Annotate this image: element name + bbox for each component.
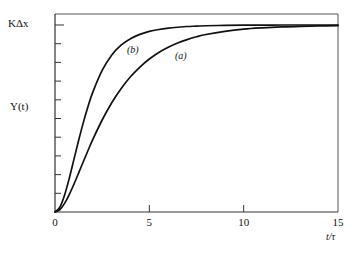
x-axis-tick-label: 15 <box>326 216 350 228</box>
x-axis-tick-label: 10 <box>232 216 256 228</box>
chart-figure: KΔx Y(t) t/τ (b) (a) 051015 <box>0 0 360 253</box>
y-axis-ticks <box>55 25 64 193</box>
x-axis-label: t/τ <box>326 232 335 242</box>
plot-frame <box>55 14 338 212</box>
series-label-b: (b) <box>127 44 139 55</box>
x-axis-tick-label: 0 <box>43 216 67 228</box>
x-axis-tick-label: 5 <box>137 216 161 228</box>
chart-series-line-a <box>55 26 338 212</box>
chart-series-line-b <box>55 25 338 212</box>
series-label-a: (a) <box>175 50 187 61</box>
y-axis-label: Y(t) <box>10 101 28 112</box>
chart-series-group <box>55 25 338 212</box>
y-axis-top-label: KΔx <box>8 18 29 29</box>
x-axis-ticks <box>149 205 243 212</box>
